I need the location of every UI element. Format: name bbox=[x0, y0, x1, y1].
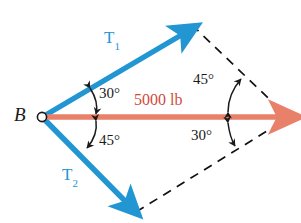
vector-t1-label: T1 bbox=[104, 29, 120, 49]
vector-t2-label-subscript: 2 bbox=[72, 177, 78, 189]
vector-t1-label-subscript: 1 bbox=[114, 40, 120, 52]
angle-arc-45-right bbox=[228, 79, 241, 112]
angle-arc-30-right bbox=[228, 123, 235, 146]
vector-t1-label-base: T bbox=[104, 28, 114, 47]
vector-diagram-canvas bbox=[0, 0, 301, 223]
vector-t2-label-base: T bbox=[62, 165, 72, 184]
dashed-line-lower bbox=[136, 118, 288, 212]
angle-label-30-left: 30° bbox=[99, 86, 120, 101]
angle-arc-30-left bbox=[90, 88, 97, 114]
force-diagram: B T1 T2 5000 lb 30° 45° 45° 30° bbox=[0, 0, 301, 223]
point-b-marker bbox=[37, 112, 46, 121]
angle-label-45-left: 45° bbox=[99, 133, 120, 148]
angle-label-30-right: 30° bbox=[191, 128, 212, 143]
point-b-label: B bbox=[14, 105, 26, 124]
angle-label-45-right: 45° bbox=[193, 72, 214, 87]
resultant-force-label: 5000 lb bbox=[134, 92, 182, 108]
vector-t2-label: T2 bbox=[62, 166, 78, 186]
angle-arc-45-left bbox=[87, 121, 96, 148]
